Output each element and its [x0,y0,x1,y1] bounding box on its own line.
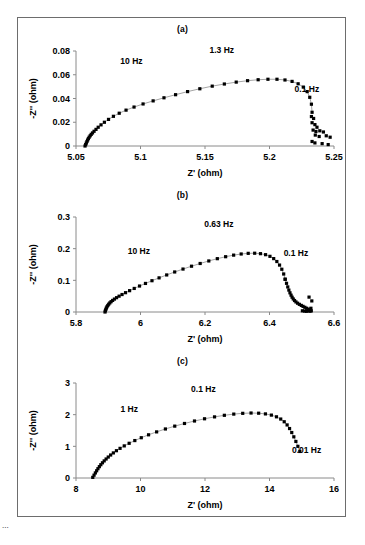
data-point-marker [283,420,286,423]
x-tick-label: 6.4 [263,318,276,328]
data-point-marker [282,272,285,275]
data-point-marker [164,427,167,430]
y-tick-label: 2 [65,410,70,420]
y-axis-title: -Z'' (ohm) [28,244,38,284]
data-point-marker [133,439,136,442]
frequency-annotation: 10 Hz [120,56,142,66]
data-point-marker [314,130,317,133]
frequency-annotation: 0.63 Hz [204,219,233,229]
data-point-marker [286,423,289,426]
data-point-marker [249,411,252,414]
data-point-marker [162,96,165,99]
data-point-marker [99,123,102,126]
data-point-marker [279,417,282,420]
data-point-marker [124,291,127,294]
data-point-marker [307,296,310,299]
data-point-marker [280,268,283,271]
y-tick-label: 0.3 [57,212,70,222]
data-point-marker [198,87,201,90]
data-point-marker [325,134,328,137]
data-point-marker [284,278,287,281]
data-point-marker [123,444,126,447]
data-point-marker [211,85,214,88]
x-tick-label: 5.2 [263,152,276,162]
y-axis-title: -Z'' (ohm) [28,410,38,450]
data-point-marker [155,430,158,433]
data-point-marker [275,415,278,418]
data-point-marker [190,265,193,268]
data-point-marker [318,129,321,132]
data-point-marker [141,102,144,105]
x-tick-label: 14 [264,484,274,494]
y-tick-label: 0.08 [52,46,70,56]
x-axis-title: Z' (ohm) [187,168,222,178]
x-tick-label: 5.15 [196,152,214,162]
data-point-marker [223,414,226,417]
data-point-marker [173,425,176,428]
data-point-marker [207,259,210,262]
y-tick-label: 0 [65,473,70,483]
data-point-marker [132,105,135,108]
data-point-marker [247,252,250,255]
data-point-marker [138,284,141,287]
data-point-marker [112,451,115,454]
data-point-marker [120,293,123,296]
panel-a-plot: 00.020.040.060.085.055.15.155.25.25Z' (o… [18,18,347,184]
data-point-marker [259,252,262,255]
data-point-marker [290,431,293,434]
data-point-marker [118,447,121,450]
caption-text: ... [2,524,365,530]
data-point-marker [152,99,155,102]
data-point-marker [329,136,332,139]
x-tick-label: 5.25 [325,152,343,162]
data-point-marker [246,79,249,82]
panel-b: (b) 00.10.20.35.866.26.46.6Z' (ohm)-Z'' … [18,184,347,350]
data-point-marker [174,93,177,96]
y-tick-label: 0.2 [57,244,70,254]
data-point-marker [144,282,147,285]
data-point-marker [266,78,269,81]
x-tick-label: 5.8 [70,318,83,328]
y-tick-label: 0.1 [57,276,70,286]
frequency-annotation: 0.1 Hz [191,384,216,394]
y-axis-title: -Z'' (ohm) [28,78,38,118]
panel-b-plot: 00.10.20.35.866.26.46.6Z' (ohm)-Z'' (ohm… [18,184,347,350]
x-tick-label: 10 [135,484,145,494]
y-tick-label: 0.04 [52,94,70,104]
frequency-annotation: 10 Hz [128,246,150,256]
data-point-marker [240,252,243,255]
data-point-marker [310,299,313,302]
y-tick-label: 3 [65,378,70,388]
caption-strip: ... [0,524,365,545]
data-point-marker [183,422,186,425]
data-point-marker [253,252,256,255]
data-point-marker [310,140,313,143]
data-point-marker [286,285,289,288]
data-point-marker [235,81,238,84]
data-point-marker [312,128,315,131]
data-point-marker [292,435,295,438]
data-point-marker [310,103,313,106]
data-point-marker [213,415,216,418]
data-point-marker [257,78,260,81]
data-point-marker [308,96,311,99]
data-point-marker [278,263,281,266]
data-point-marker [173,270,176,273]
data-point-marker [165,273,168,276]
data-point-marker [321,142,324,145]
x-tick-label: 12 [200,484,210,494]
x-tick-label: 16 [329,484,339,494]
x-tick-label: 8 [73,484,78,494]
data-point-marker [268,255,271,258]
data-point-marker [117,295,120,298]
data-point-marker [264,412,267,415]
panel-c: (c) 0123810121416Z' (ohm)-Z'' (ohm)1 Hz0… [18,350,347,516]
data-point-marker [322,130,325,133]
frequency-annotation: 0.1 Hz [295,84,320,94]
data-point-marker [147,433,150,436]
data-point-marker [232,413,235,416]
data-point-marker [112,115,115,118]
data-point-marker [314,133,317,136]
x-tick-label: 5.05 [67,152,85,162]
data-point-marker [241,412,244,415]
